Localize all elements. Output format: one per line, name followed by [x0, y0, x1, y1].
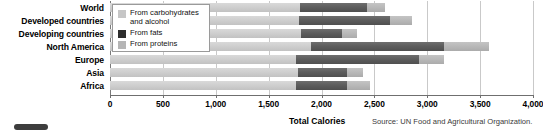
bar-segment[interactable] — [110, 81, 296, 90]
bar-segment[interactable] — [296, 55, 419, 64]
bar-segment[interactable] — [444, 42, 488, 51]
legend-label-carbohydrates: From carbohydrates and alcohol — [130, 9, 199, 26]
bar-segment[interactable] — [367, 3, 386, 12]
bar-segment[interactable] — [342, 29, 357, 38]
x-tick-3500 — [480, 95, 481, 98]
bar-segment[interactable] — [347, 68, 363, 77]
category-label-developing-countries: Developing countries — [0, 29, 104, 39]
legend-label-fats: From fats — [130, 29, 162, 38]
page-corner-mark — [14, 124, 48, 130]
x-tick-500 — [163, 95, 164, 98]
bar-segment[interactable] — [110, 68, 298, 77]
x-tick-label-4000: 4,000 — [523, 99, 543, 109]
legend-label-proteins: From proteins — [130, 40, 177, 49]
legend-swatch-fats-icon — [118, 30, 126, 38]
legend-item-fats: From fats — [118, 29, 162, 38]
bar-segment[interactable] — [311, 42, 444, 51]
bar-segment[interactable] — [347, 81, 369, 90]
stacked-bar-chart: World Developed countries Developing cou… — [0, 0, 543, 133]
bar-segment[interactable] — [301, 29, 342, 38]
bar-row[interactable] — [110, 55, 533, 64]
legend-swatch-carbohydrates-icon — [118, 10, 126, 18]
x-axis-title: Total Calories — [289, 116, 345, 126]
x-tick-1500 — [269, 95, 270, 98]
x-tick-1000 — [216, 95, 217, 98]
category-axis-labels: World Developed countries Developing cou… — [0, 0, 104, 95]
x-tick-label-3000: 3,000 — [417, 99, 438, 109]
source-note: Source: UN Food and Agricultural Organiz… — [372, 117, 532, 126]
legend-item-proteins: From proteins — [118, 40, 177, 49]
x-tick-2000 — [322, 95, 323, 98]
bar-segment[interactable] — [299, 16, 390, 25]
x-tick-label-2500: 2,500 — [364, 99, 385, 109]
bar-segment[interactable] — [390, 16, 412, 25]
x-tick-label-500: 500 — [156, 99, 170, 109]
category-label-developed-countries: Developed countries — [0, 16, 104, 26]
x-tick-0 — [110, 95, 111, 98]
chart-legend: From carbohydrates and alcohol From fats… — [112, 4, 210, 52]
bar-segment[interactable] — [296, 81, 347, 90]
bar-segment[interactable] — [298, 68, 347, 77]
x-tick-3000 — [427, 95, 428, 98]
x-tick-label-0: 0 — [108, 99, 113, 109]
category-label-africa: Africa — [0, 81, 104, 91]
x-tick-label-1500: 1,500 — [258, 99, 279, 109]
bar-segment[interactable] — [419, 55, 444, 64]
category-label-world: World — [0, 3, 104, 13]
bar-row[interactable] — [110, 81, 533, 90]
x-tick-label-3500: 3,500 — [470, 99, 491, 109]
bar-segment[interactable] — [300, 3, 367, 12]
x-tick-label-1000: 1,000 — [205, 99, 226, 109]
category-label-asia: Asia — [0, 68, 104, 78]
x-tick-4000 — [533, 95, 534, 98]
bar-segment[interactable] — [110, 55, 296, 64]
x-tick-label-2000: 2,000 — [311, 99, 332, 109]
category-label-europe: Europe — [0, 55, 104, 65]
legend-swatch-proteins-icon — [118, 41, 126, 49]
bar-row[interactable] — [110, 68, 533, 77]
x-tick-2500 — [374, 95, 375, 98]
legend-item-carbohydrates: From carbohydrates and alcohol — [118, 9, 199, 26]
gridline-4000 — [533, 1, 534, 95]
category-label-north-america: North America — [0, 42, 104, 52]
